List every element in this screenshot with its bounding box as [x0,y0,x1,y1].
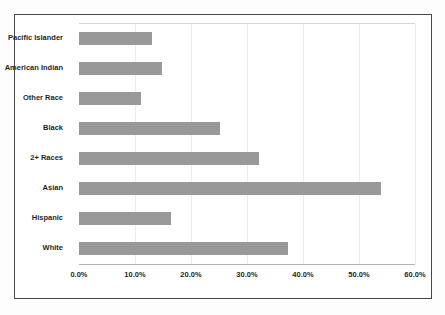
x-tick-label: 10.0% [124,270,145,279]
x-tick-label: 40.0% [292,270,313,279]
x-tick-label: 0.0% [70,270,87,279]
gridline [415,24,416,264]
chart-row [79,174,415,204]
chart-row [79,114,415,144]
x-tick-label: 30.0% [236,270,257,279]
bar-asian [79,182,381,195]
bar-hispanic [79,212,171,225]
x-tick-label: 50.0% [348,270,369,279]
bar-other-race [79,92,141,105]
chart-row [79,24,415,54]
x-tick-label: 60.0% [404,270,425,279]
category-label: Pacific Islander [8,23,63,53]
category-label: Hispanic [32,203,63,233]
category-label: American Indian [5,53,63,83]
chart-row [79,144,415,174]
category-label: Asian [43,173,63,203]
x-axis: 0.0%10.0%20.0%30.0%40.0%50.0%60.0% [79,267,415,281]
bar-white [79,242,288,255]
chart-row [79,84,415,114]
chart-row [79,54,415,84]
chart-row [79,204,415,234]
category-label: White [43,233,63,263]
bar-american-indian [79,62,162,75]
category-label: Black [43,113,63,143]
category-label: 2+ Races [30,143,63,173]
category-axis: Pacific IslanderAmerican IndianOther Rac… [15,23,71,263]
bar-2-races [79,152,259,165]
bar-black [79,122,220,135]
category-label: Other Race [23,83,63,113]
bar-pacific-islander [79,32,152,45]
chart-frame: Pacific IslanderAmerican IndianOther Rac… [14,14,432,299]
plot-area [79,23,415,265]
x-tick-label: 20.0% [180,270,201,279]
chart-row [79,234,415,264]
